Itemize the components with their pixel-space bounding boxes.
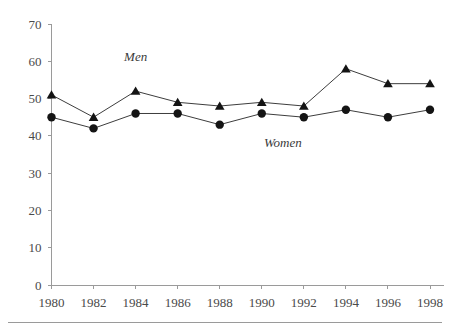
- series-marker-group: [47, 64, 435, 132]
- y-tick-label: 50: [29, 91, 42, 106]
- y-tick-label: 40: [29, 128, 42, 143]
- x-tick-label: 1998: [417, 295, 443, 310]
- y-tick-label-group: 010203040506070: [29, 17, 42, 293]
- y-tick-label: 60: [29, 54, 42, 69]
- marker-circle: [131, 109, 139, 117]
- marker-circle: [426, 106, 434, 114]
- y-tick-label: 0: [35, 278, 42, 293]
- x-tick-label: 1980: [39, 295, 65, 310]
- marker-triangle: [257, 98, 267, 106]
- y-tick-label: 20: [29, 203, 42, 218]
- marker-circle: [300, 113, 308, 121]
- series-annotation-group: MenWomen: [123, 49, 302, 150]
- marker-circle: [89, 124, 97, 132]
- x-tick-label: 1992: [291, 295, 317, 310]
- line-chart: 010203040506070 198019821984198619881990…: [0, 0, 450, 334]
- marker-triangle: [131, 87, 141, 95]
- series-line-men: [52, 69, 431, 117]
- x-tick-label: 1986: [165, 295, 192, 310]
- x-tick-label: 1994: [333, 295, 360, 310]
- x-tick-label: 1982: [81, 295, 107, 310]
- x-tick-label: 1988: [207, 295, 233, 310]
- series-annotation-women: Women: [264, 135, 302, 150]
- x-tick-label-group: 1980198219841986198819901992199419961998: [39, 295, 444, 310]
- chart-page: 010203040506070 198019821984198619881990…: [0, 0, 450, 334]
- marker-circle: [384, 113, 392, 121]
- marker-triangle: [47, 90, 57, 98]
- series-line-group: [52, 69, 431, 129]
- series-annotation-men: Men: [123, 49, 147, 64]
- y-tick-group: [48, 24, 52, 285]
- x-tick-label: 1996: [375, 295, 402, 310]
- marker-triangle: [89, 113, 99, 121]
- x-tick-label: 1984: [123, 295, 150, 310]
- y-tick-label: 10: [29, 240, 42, 255]
- x-axis-group: 1980198219841986198819901992199419961998: [39, 285, 445, 310]
- marker-circle: [258, 109, 266, 117]
- x-tick-label: 1990: [249, 295, 275, 310]
- y-tick-label: 30: [29, 166, 42, 181]
- y-axis-group: 010203040506070: [29, 17, 52, 293]
- y-tick-label: 70: [29, 17, 42, 32]
- marker-circle: [173, 109, 181, 117]
- series-line-women: [52, 110, 431, 129]
- marker-circle: [342, 106, 350, 114]
- marker-triangle: [341, 64, 351, 72]
- marker-circle: [47, 113, 55, 121]
- marker-circle: [216, 120, 224, 128]
